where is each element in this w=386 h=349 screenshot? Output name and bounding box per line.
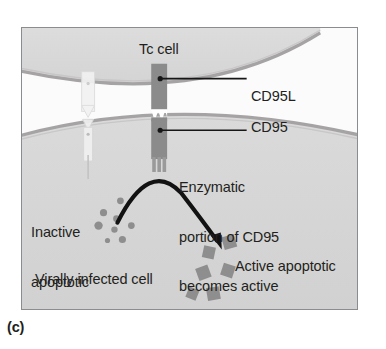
inactive-enzyme-dot <box>128 222 135 229</box>
inactive-enzyme-dot <box>94 221 102 229</box>
label-active-enzymes: Active apoptotic enzymes induce apoptosi… <box>235 225 338 310</box>
unbound-ligand-dot <box>87 82 90 85</box>
inactive-enzyme-dot <box>117 197 124 204</box>
label-cd95: CD95 <box>251 119 288 136</box>
label-inactive-enzymes: Inactive apoptotic enzymes <box>31 191 89 310</box>
inactive-enzyme-dot <box>111 226 117 232</box>
figure-panel-c: Tc cell CD95L CD95 Enzymatic portion of … <box>0 0 386 349</box>
inactive-enzyme-dot <box>119 236 126 243</box>
label-virally-infected-cell: Virally infected cell <box>35 271 153 288</box>
inactive-line-1: Inactive <box>31 224 89 241</box>
cd95-enzymatic-prong-2 <box>157 157 161 172</box>
cd95-enzymatic-prong-1 <box>152 157 156 172</box>
enzymatic-line-1: Enzymatic <box>179 179 279 196</box>
cd95-enzymatic-prong-3 <box>163 157 167 172</box>
inactive-enzyme-dot <box>105 238 110 243</box>
cd95l-ligand-bar <box>151 64 167 110</box>
label-cd95l: CD95L <box>251 88 296 105</box>
active-line-1: Active apoptotic <box>235 258 338 275</box>
cd95-receptor-bar <box>151 119 167 159</box>
label-tc-cell: Tc cell <box>139 41 179 58</box>
active-line-2: enzymes induce <box>235 308 338 310</box>
illustration-frame: Tc cell CD95L CD95 Enzymatic portion of … <box>21 27 358 310</box>
inactive-enzyme-dot <box>100 209 107 216</box>
unbound-receptor-dot <box>87 133 90 136</box>
figure-caption: (c) <box>7 319 24 335</box>
